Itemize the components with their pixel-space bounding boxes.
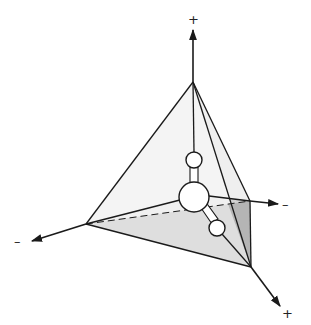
tetrahedron-diagram: + – – + — [0, 0, 311, 325]
label-up-plus: + — [188, 12, 199, 27]
stick-central-upper — [190, 167, 198, 183]
label-right-minus: – — [282, 197, 289, 212]
axis-right — [250, 201, 278, 204]
label-left-minus: – — [14, 234, 21, 249]
label-lowerright-plus: + — [282, 306, 293, 321]
axis-lower-right — [251, 267, 280, 306]
upper-ligand-atom — [186, 152, 202, 168]
central-atom — [179, 182, 209, 212]
axis-left — [32, 224, 86, 241]
lower-ligand-atom — [209, 220, 225, 236]
